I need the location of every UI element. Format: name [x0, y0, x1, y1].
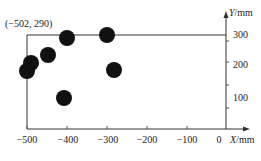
x-tick-label: −500	[17, 134, 38, 145]
scatter-chart: −500 −400 −300 −200 −100 0 X/mm 300 200 …	[0, 0, 261, 161]
data-points	[19, 27, 122, 106]
x-tick-label: −400	[58, 134, 79, 145]
x-axis-arrow-icon	[243, 127, 250, 132]
data-point	[40, 47, 56, 63]
y-axis-title: Y/mm	[229, 7, 253, 18]
data-point	[106, 62, 122, 78]
y-tick-label: 100	[233, 92, 248, 103]
data-point	[99, 27, 115, 43]
y-tick-label: 300	[233, 29, 248, 40]
data-point	[56, 90, 72, 106]
x-tick-label: 0	[217, 134, 222, 145]
data-point	[59, 30, 75, 46]
x-axis-unit: /mm	[236, 134, 255, 145]
x-axis-title: X/mm	[229, 134, 255, 145]
corner-annotation: (−502, 290)	[5, 18, 52, 30]
y-tick-label: 200	[233, 59, 248, 70]
y-axis-arrow-icon	[224, 11, 229, 18]
y-axis-unit: /mm	[235, 7, 254, 18]
x-tick-label: −100	[177, 134, 198, 145]
data-point	[23, 55, 39, 71]
x-tick-label: −200	[137, 134, 158, 145]
x-tick-label: −300	[98, 134, 119, 145]
